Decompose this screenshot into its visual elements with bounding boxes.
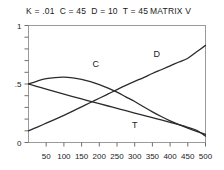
curve-label-D: D: [153, 49, 160, 59]
x-tick-label: 500: [199, 152, 213, 161]
x-axis-tick-labels: 50100150200250300350400450500: [42, 152, 213, 161]
x-tick-label: 150: [75, 152, 89, 161]
chart-figure: K = .01 C = 45 D = 10 T = 45 MATRIX V 0.…: [0, 0, 224, 170]
x-tick-label: 250: [110, 152, 124, 161]
line-chart-plot: 0.51 50100150200250300350400450500 CDT: [0, 0, 224, 170]
x-tick-label: 200: [93, 152, 107, 161]
curve-label-T: T: [132, 120, 138, 130]
x-tick-label: 300: [128, 152, 142, 161]
curve-C: [29, 77, 206, 134]
x-tick-label: 350: [146, 152, 160, 161]
curve-D: [29, 45, 206, 130]
x-axis-ticks: [46, 143, 205, 147]
curve-labels: CDT: [93, 49, 161, 130]
x-tick-label: 100: [57, 152, 71, 161]
y-axis-tick-labels: 0.51: [15, 22, 22, 148]
x-tick-label: 400: [163, 152, 177, 161]
y-tick-label: .5: [15, 80, 22, 89]
x-tick-label: 50: [42, 152, 51, 161]
y-tick-label: 0: [17, 139, 22, 148]
y-tick-label: 1: [17, 22, 22, 31]
curve-label-C: C: [93, 59, 100, 69]
x-tick-label: 450: [181, 152, 195, 161]
data-curves: [29, 45, 206, 136]
